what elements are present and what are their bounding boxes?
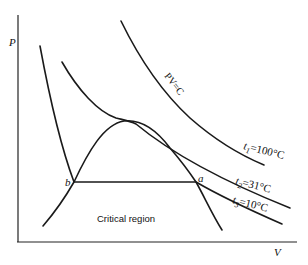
- isotherm-t1-curve: [121, 21, 264, 165]
- isotherm-t1-label: t1=100°C: [242, 139, 286, 164]
- x-axis-label: V: [274, 246, 282, 258]
- svg-text:t1=100°C: t1=100°C: [242, 139, 286, 164]
- pv-isotherm-diagram: P V PV=C t1=100°C t2=31°C t3=10°C b a Cr…: [0, 0, 308, 265]
- svg-text:t2=31°C: t2=31°C: [234, 174, 273, 197]
- isotherm-t2-label: t2=31°C: [234, 174, 273, 197]
- critical-region-label: Critical region: [97, 213, 155, 224]
- point-b-label: b: [65, 176, 71, 188]
- point-a-label: a: [198, 172, 204, 184]
- y-axis-label: P: [8, 36, 16, 48]
